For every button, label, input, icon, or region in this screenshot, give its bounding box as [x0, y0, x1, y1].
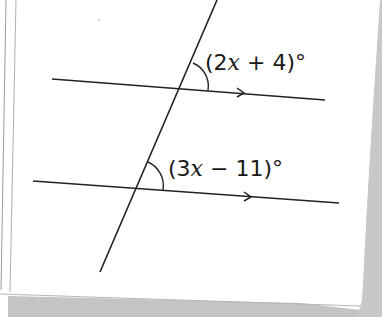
page-paper — [0, 0, 380, 305]
angle-label-upper-suffix: + 4)° — [240, 50, 306, 75]
diagram-page: (2x + 4)° (3x − 11)° — [0, 0, 382, 317]
angle-label-upper-variable: x — [228, 50, 240, 75]
angle-label-lower-variable: x — [191, 156, 203, 181]
angle-label-lower-prefix: (3 — [168, 156, 191, 181]
angle-label-lower-suffix: − 11)° — [203, 156, 283, 181]
paper-speck — [98, 19, 101, 22]
angle-label-lower: (3x − 11)° — [168, 158, 283, 180]
angle-label-upper-prefix: (2 — [205, 50, 228, 75]
angle-label-upper: (2x + 4)° — [205, 52, 306, 74]
